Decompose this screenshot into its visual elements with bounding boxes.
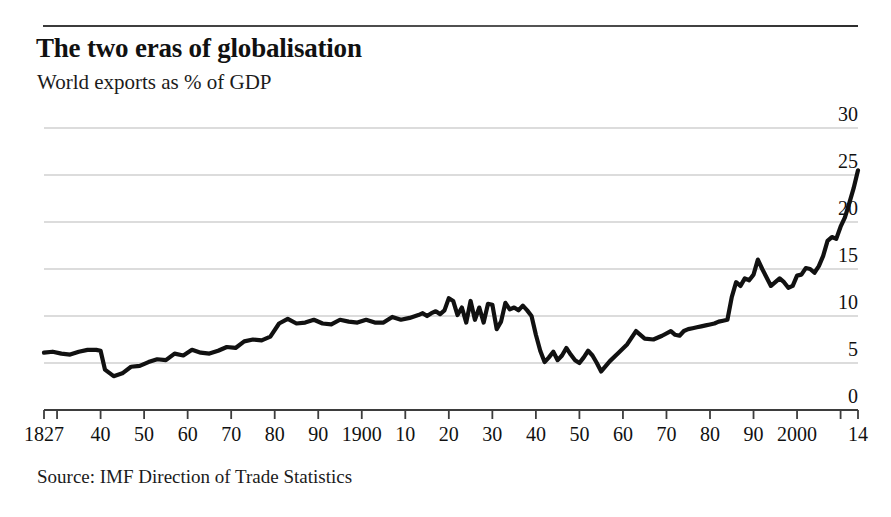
y-axis-tick-label: 20 xyxy=(812,197,858,220)
x-axis-ticks-group xyxy=(44,410,858,419)
y-axis-tick-label: 25 xyxy=(812,150,858,173)
y-axis-tick-label: 15 xyxy=(812,244,858,267)
data-series-line xyxy=(44,170,858,376)
plot-area: 051015202530 182740506070809019001020304… xyxy=(0,0,891,517)
x-axis-tick-label: 60 xyxy=(613,423,633,446)
x-axis-tick-label: 1900 xyxy=(342,423,382,446)
x-axis-tick-label: 1827 xyxy=(24,423,64,446)
x-axis-tick-label: 40 xyxy=(91,423,111,446)
y-axis-tick-label: 0 xyxy=(812,385,858,408)
chart-figure: The two eras of globalisation World expo… xyxy=(0,0,891,517)
gridlines-group xyxy=(44,128,858,363)
x-axis-tick-label: 70 xyxy=(221,423,241,446)
x-axis-tick-label: 80 xyxy=(700,423,720,446)
source-note: Source: IMF Direction of Trade Statistic… xyxy=(37,466,352,488)
x-axis-tick-label: 90 xyxy=(308,423,328,446)
x-axis-tick-label: 50 xyxy=(569,423,589,446)
x-axis-tick-label: 80 xyxy=(265,423,285,446)
x-axis-tick-label: 14 xyxy=(848,423,868,446)
y-axis-tick-label: 10 xyxy=(812,291,858,314)
x-axis-tick-label: 60 xyxy=(178,423,198,446)
x-axis-tick-label: 20 xyxy=(439,423,459,446)
x-axis-tick-label: 10 xyxy=(395,423,415,446)
x-axis-tick-label: 40 xyxy=(526,423,546,446)
y-axis-tick-label: 5 xyxy=(812,338,858,361)
x-axis-tick-label: 70 xyxy=(656,423,676,446)
x-axis-tick-label: 30 xyxy=(482,423,502,446)
y-axis-tick-label: 30 xyxy=(812,103,858,126)
x-axis-tick-label: 90 xyxy=(744,423,764,446)
x-axis-tick-label: 2000 xyxy=(777,423,817,446)
x-axis-tick-label: 50 xyxy=(134,423,154,446)
